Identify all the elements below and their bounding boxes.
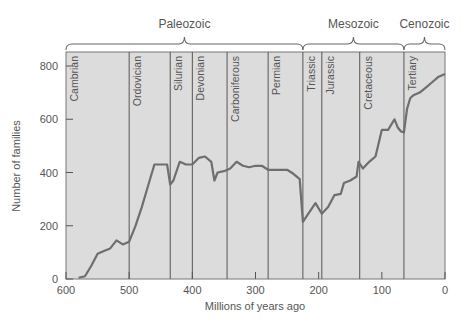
- x-axis-label: Millions of years ago: [205, 300, 305, 312]
- x-tick-label: 0: [442, 284, 448, 296]
- extinction-diversity-chart: CambrianOrdovicianSilurianDevonianCarbon…: [0, 0, 466, 336]
- era-label: Paleozoic: [158, 17, 210, 31]
- y-tick-label: 800: [40, 60, 58, 72]
- y-tick-label: 400: [40, 167, 58, 179]
- y-axis-label: Number of families: [10, 120, 22, 212]
- era-braces: PaleozoicMesozoicCenozoic: [66, 17, 449, 50]
- x-tick-label: 500: [120, 284, 138, 296]
- period-label: Triassic: [305, 56, 317, 92]
- x-tick-label: 200: [309, 284, 327, 296]
- y-tick-label: 600: [40, 113, 58, 125]
- era-brace: [66, 37, 303, 50]
- period-label: Ordovician: [131, 56, 143, 106]
- period-label: Carboniferous: [229, 56, 241, 122]
- era-brace: [404, 37, 445, 50]
- period-label: Devonian: [194, 56, 206, 101]
- period-label: Permian: [270, 56, 282, 95]
- y-tick-label: 200: [40, 220, 58, 232]
- x-tick-label: 600: [57, 284, 75, 296]
- era-label: Cenozoic: [399, 17, 449, 31]
- period-label: Silurian: [172, 56, 184, 91]
- x-tick-label: 400: [183, 284, 201, 296]
- period-label: Cretaceous: [362, 56, 374, 110]
- era-brace: [303, 37, 404, 50]
- era-label: Mesozoic: [328, 17, 379, 31]
- period-label: Jurassic: [324, 56, 336, 95]
- period-label: Cambrian: [68, 56, 80, 102]
- x-tick-label: 100: [373, 284, 391, 296]
- period-label: Tertiary: [406, 55, 418, 90]
- x-tick-label: 300: [246, 284, 264, 296]
